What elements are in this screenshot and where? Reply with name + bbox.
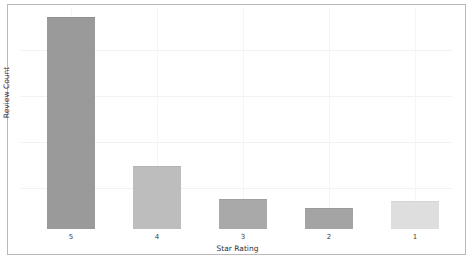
bar-5 — [47, 17, 95, 229]
gridline-vertical — [329, 8, 330, 229]
x-tick-label-1: 4 — [127, 233, 187, 242]
x-tick-label-2: 3 — [213, 233, 273, 242]
x-tick-label-0: 5 — [41, 233, 101, 242]
bar-4 — [133, 166, 181, 229]
plot-area — [21, 8, 452, 229]
x-axis-title: Star Rating — [0, 244, 475, 253]
bar-2 — [305, 208, 353, 229]
x-tick-label-3: 2 — [299, 233, 359, 242]
bar-chart-figure: 5 4 3 2 1 Star Rating Review Count — [0, 0, 475, 266]
gridline-vertical — [243, 8, 244, 229]
gridline-vertical — [415, 8, 416, 229]
bar-1 — [391, 201, 439, 229]
y-axis-title: Review Count — [2, 43, 11, 143]
bar-3 — [219, 199, 267, 229]
x-tick-label-4: 1 — [385, 233, 445, 242]
